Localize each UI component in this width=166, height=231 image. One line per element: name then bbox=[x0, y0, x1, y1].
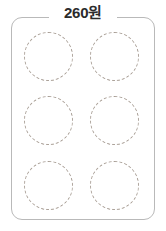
dashed-circle bbox=[90, 161, 139, 210]
dashed-circle bbox=[90, 32, 139, 81]
dashed-circle bbox=[24, 161, 73, 210]
circle-grid bbox=[11, 17, 155, 220]
price-card-sheet: 260원 bbox=[0, 0, 166, 231]
dashed-circle bbox=[24, 32, 73, 81]
dashed-circle bbox=[24, 96, 73, 145]
dashed-circle bbox=[90, 96, 139, 145]
